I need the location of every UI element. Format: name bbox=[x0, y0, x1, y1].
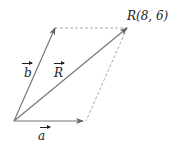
vector-b-overarrow-icon bbox=[22, 63, 32, 64]
vector-b-label: b bbox=[24, 67, 32, 79]
vector-R-label: R bbox=[54, 67, 63, 79]
dashed-right-edge bbox=[86, 28, 127, 121]
point-R-label: R(8, 6) bbox=[127, 10, 168, 22]
vector-R-overarrow-icon bbox=[54, 63, 64, 64]
vector-a-label: a bbox=[38, 130, 45, 142]
vector-a-overarrow-icon bbox=[40, 127, 50, 128]
vector-b-arrow bbox=[14, 28, 55, 121]
vector-diagram: b R a R(8, 6) bbox=[0, 0, 177, 148]
